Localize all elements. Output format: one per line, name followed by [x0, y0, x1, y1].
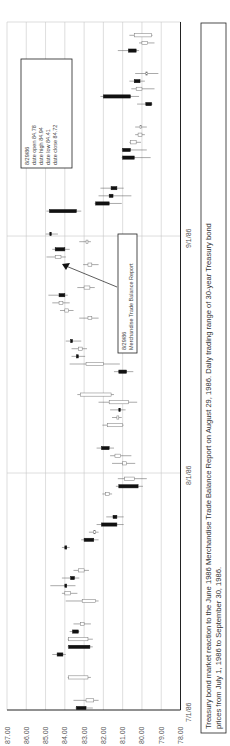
info-line-3: date low 84.41	[45, 129, 51, 165]
candle	[69, 638, 88, 641]
info-line-0: 8/29/86	[24, 147, 30, 165]
candle	[101, 446, 109, 449]
candle	[78, 347, 82, 350]
candle	[86, 699, 94, 702]
price-tick-label: 85.00	[42, 726, 49, 744]
candle	[123, 156, 135, 159]
info-line-2: date high 84.94	[38, 127, 44, 165]
candle	[71, 339, 73, 342]
candle	[105, 492, 109, 495]
candle	[49, 210, 76, 213]
caption-line-1: prices from July 1, 1986 to September 30…	[214, 567, 223, 729]
candle	[76, 355, 78, 358]
caption-line-0: Treasury bond market reaction to the Jun…	[204, 223, 213, 729]
candle	[119, 485, 138, 488]
candle	[142, 41, 148, 44]
candle	[146, 102, 152, 105]
candlestick-chart: 87.0086.0085.0084.0083.0082.0081.0080.00…	[0, 0, 230, 746]
candle	[134, 34, 151, 37]
info-box: 8/29/86 date open 84.78 date high 84.94 …	[21, 59, 72, 168]
candle	[115, 454, 121, 457]
candle	[109, 194, 113, 197]
annotation-callout: 8/29/86 Merchandise Trade Balance Report	[62, 234, 137, 353]
price-tick-label: 79.00	[158, 726, 165, 744]
annotation-line-1: Merchandise Trade Balance Report	[128, 263, 134, 350]
candle	[80, 622, 84, 625]
candle	[136, 87, 142, 90]
candle	[88, 317, 92, 320]
candle	[140, 125, 142, 128]
candle	[65, 584, 67, 587]
candle	[138, 133, 142, 136]
price-tick-label: 83.00	[81, 726, 88, 744]
candle	[88, 263, 92, 266]
price-tick-label: 78.00	[177, 726, 184, 744]
arrow-head-icon	[62, 263, 70, 270]
annotation-line-0: 8/29/86	[121, 332, 127, 350]
candle	[50, 232, 52, 235]
candle	[59, 294, 65, 297]
candle	[69, 676, 88, 679]
candle	[57, 653, 63, 656]
date-tick-label: 9/1/86	[185, 228, 192, 248]
candle	[119, 408, 121, 411]
date-tick-label: 7/1/86	[185, 702, 192, 722]
candle	[134, 80, 140, 83]
candle	[65, 546, 67, 549]
candle	[146, 72, 148, 75]
candle	[123, 148, 131, 151]
candle	[86, 240, 88, 243]
price-tick-label: 82.00	[100, 726, 107, 744]
candle	[55, 255, 61, 258]
candle	[71, 576, 75, 579]
candle	[69, 645, 90, 648]
candle	[113, 515, 117, 518]
price-tick-label: 86.00	[23, 726, 30, 744]
candle	[107, 424, 122, 427]
candle	[73, 630, 79, 633]
candle	[109, 401, 128, 404]
candle	[84, 538, 94, 541]
candle	[125, 477, 135, 480]
price-tick-label: 80.00	[138, 726, 145, 744]
candle	[59, 301, 63, 304]
candle	[76, 706, 86, 709]
caption-box: Treasury bond market reaction to the Jun…	[201, 23, 226, 733]
price-tick-label: 87.00	[4, 726, 11, 744]
candle	[55, 248, 65, 251]
candle	[103, 95, 130, 98]
candle	[130, 141, 136, 144]
candle	[86, 362, 103, 365]
candle	[119, 370, 127, 373]
candle	[84, 286, 90, 289]
candle	[82, 599, 95, 602]
candle	[117, 416, 119, 419]
price-tick-label: 84.00	[61, 726, 68, 744]
candle	[128, 49, 136, 52]
candle	[80, 393, 111, 396]
candle	[65, 309, 69, 312]
price-tick-label: 81.00	[119, 726, 126, 744]
candle	[123, 462, 127, 465]
candle	[96, 202, 109, 205]
candle	[111, 187, 117, 190]
info-line-4: date close 84.72	[52, 125, 58, 165]
info-line-1: date open 84.78	[31, 125, 37, 165]
candle	[78, 569, 84, 572]
candle	[101, 523, 116, 526]
candle	[94, 531, 96, 534]
date-tick-label: 8/1/86	[185, 465, 192, 485]
candle	[65, 592, 71, 595]
